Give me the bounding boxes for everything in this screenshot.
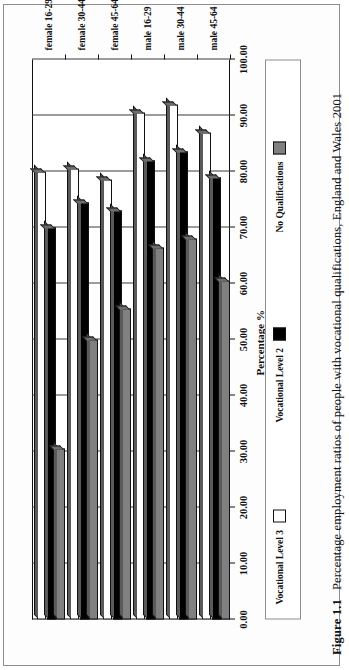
category-axis-tick	[230, 55, 231, 60]
category-label: female 30-44	[77, 0, 87, 51]
value-axis-tick-label: 100.00	[238, 45, 249, 74]
value-axis-tick	[230, 283, 235, 284]
bar-top-face	[176, 145, 180, 619]
bar-group	[197, 60, 230, 620]
bar-top-face	[166, 97, 170, 618]
category-axis-tick	[65, 55, 66, 60]
bar-top-face	[152, 240, 156, 618]
value-axis-tick	[230, 171, 235, 172]
bar-top-face	[86, 333, 90, 619]
bar-no-qualifications	[56, 449, 65, 620]
bar-top-face	[209, 170, 213, 618]
bar-no-qualifications	[89, 340, 98, 620]
legend-vocational-level-2[interactable]: Vocational Level 2	[273, 328, 286, 423]
category-axis-tick	[98, 55, 99, 60]
value-axis-tick-label: 0.00	[238, 610, 249, 628]
value-axis-tick-label: 10.00	[238, 552, 249, 576]
value-axis-tick	[230, 619, 235, 620]
bar-no-qualifications	[221, 281, 230, 620]
bar-group	[65, 60, 98, 620]
legend-vocational-level-3[interactable]: Vocational Level 3	[273, 510, 286, 605]
chart-legend: Vocational Level 3Vocational Level 2No Q…	[265, 60, 301, 620]
category-label: female 16-29	[44, 0, 54, 51]
category-label: male 30-44	[176, 6, 186, 50]
value-axis-tick	[230, 507, 235, 508]
value-axis-tick	[230, 451, 235, 452]
value-axis-tick	[230, 227, 235, 228]
bar-no-qualifications	[122, 309, 131, 620]
bar-top-face	[185, 232, 189, 619]
bar-top-face	[44, 221, 48, 619]
value-axis-tick-label: 80.00	[238, 160, 249, 184]
bar-side-face	[63, 166, 78, 170]
bar-group	[98, 60, 131, 620]
value-axis-tick-label: 30.00	[238, 440, 249, 464]
bar-top-face	[53, 442, 57, 619]
bar-top-face	[119, 302, 123, 619]
value-axis-tick	[230, 115, 235, 116]
legend-label: Vocational Level 2	[275, 348, 285, 423]
legend-no-qualifications[interactable]: No Qualifications	[273, 142, 286, 233]
value-axis-tick-label: 40.00	[238, 384, 249, 408]
figure-caption-text: Percentage employment ratios of people w…	[330, 93, 345, 590]
bar-side-face	[30, 169, 45, 173]
category-axis-tick	[131, 55, 132, 60]
bar-top-face	[143, 153, 147, 618]
figure-caption: Figure 1.1 Percentage employment ratios …	[330, 0, 349, 655]
legend-label: No Qualifications	[275, 162, 285, 233]
bar-side-face	[148, 244, 163, 248]
bar-top-face	[100, 173, 104, 619]
bar-group	[164, 60, 197, 620]
figure-number: Figure 1.1	[330, 599, 345, 655]
value-axis-tick-label: 70.00	[238, 216, 249, 240]
bar-top-face	[110, 204, 114, 619]
value-axis-tick-label: 90.00	[238, 104, 249, 128]
chart-plot-area	[32, 60, 230, 620]
category-label: male 45-64	[209, 6, 219, 50]
bar-side-face	[96, 177, 111, 181]
value-axis-tick	[230, 563, 235, 564]
legend-swatch	[273, 328, 286, 341]
bar-top-face	[67, 162, 71, 619]
value-axis-tick-label: 60.00	[238, 272, 249, 296]
value-axis-tick	[230, 395, 235, 396]
bar-top-face	[77, 195, 81, 618]
category-label: female 45-64	[110, 0, 120, 51]
value-axis-tick-label: 50.00	[238, 328, 249, 352]
legend-swatch	[273, 142, 286, 155]
category-axis-tick	[164, 55, 165, 60]
legend-label: Vocational Level 3	[275, 530, 285, 605]
value-axis-tick	[230, 339, 235, 340]
bar-no-qualifications	[188, 239, 197, 620]
bar-group	[32, 60, 65, 620]
value-axis-tick-label: 20.00	[238, 496, 249, 520]
bar-side-face	[129, 110, 144, 114]
legend-swatch	[273, 510, 286, 523]
bar-top-face	[34, 165, 38, 619]
chart-and-legend: 0.0010.0020.0030.0040.0050.0060.0070.008…	[22, 23, 322, 648]
category-axis-tick	[197, 55, 198, 60]
bar-top-face	[199, 125, 203, 618]
bar-side-face	[162, 101, 177, 105]
category-label: male 16-29	[143, 6, 153, 50]
bar-group	[131, 60, 164, 620]
bar-side-face	[195, 129, 210, 133]
bar-no-qualifications	[155, 247, 164, 619]
bar-top-face	[133, 106, 137, 619]
bar-top-face	[218, 274, 222, 619]
